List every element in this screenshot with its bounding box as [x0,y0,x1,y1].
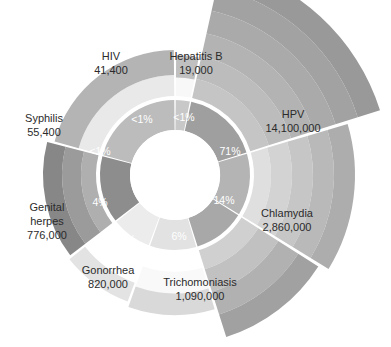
chart-svg: <1%71%14%6%4%4%<1%<1% Hepatitis B19,000H… [0,0,391,347]
value-label-hpv: 14,100,000 [265,122,320,134]
percent-label-genital-herpes: 4% [92,196,107,208]
value-label-trichomoniasis: 1,090,000 [176,290,225,302]
value-label-hiv: 41,400 [94,64,128,76]
category-label-syphilis: Syphilis [25,112,63,124]
percent-label-trichomoniasis: 6% [171,230,186,242]
category-label-gonorrhea: Gonorrhea [82,264,135,276]
percent-label-syphilis: <1% [89,145,110,157]
percent-label-gonorrhea: 4% [120,233,135,245]
sunburst-chart: <1%71%14%6%4%4%<1%<1% Hepatitis B19,000H… [0,0,391,347]
percent-label-chlamydia: 14% [213,194,234,206]
value-label-gonorrhea: 820,000 [88,278,128,290]
value-label-genital-herpes: 776,000 [27,229,67,241]
category-label-hepatitis-b: Hepatitis B [169,50,222,62]
category-label-genital-herpes: herpes [30,215,64,227]
outer-band-gonorrhea [143,249,203,271]
percent-label-hepatitis-b: <1% [173,111,194,123]
value-label-chlamydia: 2,860,000 [263,221,312,233]
category-label-trichomoniasis: Trichomoniasis [163,276,237,288]
center-hole [130,130,220,220]
category-label-hiv: HIV [102,50,121,62]
category-label-chlamydia: Chlamydia [261,207,314,219]
value-label-syphilis: 55,400 [27,126,61,138]
category-label-hpv: HPV [282,108,305,120]
percent-label-hpv: 71% [219,145,240,157]
outer-band-hepatitis-b [176,78,195,98]
category-label-genital-herpes: Genital [30,201,65,213]
value-label-hepatitis-b: 19,000 [179,64,213,76]
percent-label-hiv: <1% [131,113,152,125]
